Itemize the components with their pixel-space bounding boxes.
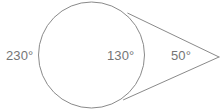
major-arc-label: 230°: [6, 49, 33, 62]
lower-tangent-line: [124, 57, 220, 100]
minor-arc-label: 130°: [107, 49, 134, 62]
vertex-angle-label: 50°: [171, 49, 191, 62]
geometry-figure: 230° 130° 50°: [0, 0, 224, 112]
